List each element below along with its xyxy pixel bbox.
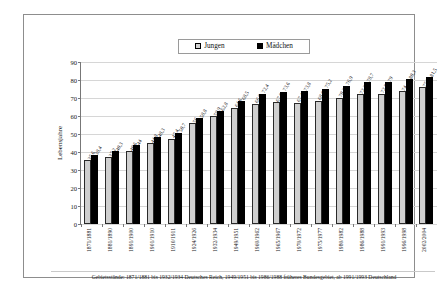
y-axis-tick-label: 40 — [70, 149, 77, 156]
x-axis-label-cell: 1949/1951 — [227, 227, 248, 271]
x-axis-label-cell: 1901/1910 — [143, 227, 164, 271]
gridline — [81, 224, 437, 225]
x-axis-tick-label: 1924/1926 — [192, 228, 198, 252]
bar-jungen: 70,2 — [336, 98, 343, 224]
x-axis-label-cell: 1924/1926 — [185, 227, 206, 271]
bar-jungen: 67,6 — [273, 102, 280, 224]
y-axis-tick-label: 10 — [70, 203, 77, 210]
bar-jungen: 72,5 — [378, 94, 385, 225]
x-axis-tick-label: 1891/1900 — [130, 228, 136, 252]
legend-label-maedchen: Mädchen — [266, 43, 293, 50]
chart-footnote: Gebietsstände: 1871/1881 bis 1932/1934 D… — [54, 274, 434, 280]
bar-maedchen: 40,3 — [112, 151, 119, 224]
x-axis-tick-label: 1965/1967 — [276, 228, 282, 252]
chart-frame: Jungen Mädchen Lebensjahre 0102030405060… — [23, 14, 415, 278]
bar-maedchen: 81,5 — [426, 77, 433, 224]
x-axis-label-cell: 1970/1972 — [289, 227, 310, 271]
bar-maedchen: 75,2 — [322, 89, 329, 224]
bar-maedchen: 76,9 — [343, 86, 350, 224]
x-axis-labels: 1871/18811881/18901891/19001901/19101910… — [80, 227, 436, 271]
x-axis-label-cell: 1910/1911 — [164, 227, 185, 271]
bar-group: 66,972,4 — [249, 62, 270, 224]
bar-maedchen: 44 — [133, 145, 140, 224]
bar-group: 40,644 — [123, 62, 144, 224]
x-axis-tick-label: 1871/1881 — [88, 228, 94, 252]
bar-group: 7480,3 — [395, 62, 416, 224]
chart-legend: Jungen Mädchen — [178, 39, 310, 54]
bar-group: 59,962,8 — [207, 62, 228, 224]
bar-maedchen: 79 — [385, 82, 392, 224]
x-axis-tick-label: 1986/1988 — [360, 228, 366, 252]
x-axis-tick-label: 1970/1972 — [297, 228, 303, 252]
bar-group: 72,579 — [374, 62, 395, 224]
y-axis-tick-label: 70 — [70, 95, 77, 102]
bar-maedchen: 73,6 — [280, 92, 287, 224]
x-axis-tick-label: 1991/1993 — [381, 228, 387, 252]
bar-maedchen: 50,7 — [175, 133, 182, 224]
bar-jungen: 59,9 — [210, 116, 217, 224]
bar-maedchen: 78,7 — [364, 82, 371, 224]
bar-group: 75,981,5 — [416, 62, 437, 224]
y-axis-tick-label: 90 — [70, 59, 77, 66]
legend-item-jungen: Jungen — [195, 43, 224, 50]
bar-maedchen: 73,8 — [301, 91, 308, 224]
x-axis-tick-label: 2002/2004 — [423, 228, 429, 252]
x-axis-tick-label: 1881/1890 — [109, 228, 115, 252]
bar-group: 5658,8 — [186, 62, 207, 224]
bar-jungen: 40,6 — [126, 151, 133, 224]
y-axis-tick-label: 50 — [70, 131, 77, 138]
bar-value-label: 79 — [387, 75, 394, 82]
x-axis-tick-label: 1910/1911 — [171, 228, 177, 252]
x-axis-label-cell: 1881/1890 — [101, 227, 122, 271]
y-axis-tick-label: 30 — [70, 167, 77, 174]
bar-jungen: 56 — [189, 123, 196, 224]
bar-jungen: 68,6 — [315, 101, 322, 224]
bar-group: 37,240,3 — [102, 62, 123, 224]
bar-jungen: 35,6 — [84, 160, 91, 224]
bar-group: 64,668,5 — [228, 62, 249, 224]
x-axis-tick-label: 1960/1962 — [255, 228, 261, 252]
legend-item-maedchen: Mädchen — [257, 43, 293, 50]
x-axis-label-cell: 1996/1998 — [394, 227, 415, 271]
bar-group: 72,278,7 — [353, 62, 374, 224]
bar-group: 44,848,3 — [144, 62, 165, 224]
bar-jungen: 44,8 — [147, 143, 154, 224]
bar-jungen: 66,9 — [252, 104, 259, 224]
legend-swatch-maedchen — [257, 43, 263, 49]
footnote-divider — [51, 271, 435, 272]
x-axis-label-cell: 1965/1967 — [268, 227, 289, 271]
legend-swatch-jungen — [195, 43, 201, 49]
x-axis-label-cell: 1932/1934 — [206, 227, 227, 271]
bar-maedchen: 38,4 — [91, 155, 98, 224]
x-axis-label-cell: 1980/1982 — [331, 227, 352, 271]
bar-group: 68,675,2 — [311, 62, 332, 224]
bar-maedchen: 48,3 — [154, 137, 161, 224]
bar-jungen: 47,4 — [168, 139, 175, 224]
bar-jungen: 64,6 — [231, 108, 238, 224]
bar-jungen: 67,4 — [294, 103, 301, 224]
bar-value-label: 81,5 — [429, 67, 438, 78]
bar-group: 67,473,8 — [290, 62, 311, 224]
bar-jungen: 37,2 — [105, 157, 112, 224]
bar-groups: 35,638,437,240,340,64444,848,347,450,756… — [81, 62, 437, 224]
y-axis-tick-label: 20 — [70, 185, 77, 192]
x-axis-tick-label: 1980/1982 — [339, 228, 345, 252]
bar-jungen: 75,9 — [419, 87, 426, 224]
bar-group: 35,638,4 — [81, 62, 102, 224]
bar-group: 67,673,6 — [269, 62, 290, 224]
legend-label-jungen: Jungen — [204, 43, 224, 50]
bar-value-label: 44 — [136, 138, 143, 145]
x-axis-tick-label: 1975/1977 — [318, 228, 324, 252]
x-axis-label-cell: 1871/1881 — [80, 227, 101, 271]
y-axis-tick-label: 80 — [70, 77, 77, 84]
bar-jungen: 74 — [399, 91, 406, 224]
bar-group: 70,276,9 — [332, 62, 353, 224]
plot-area: 0102030405060708090 35,638,437,240,340,6… — [80, 62, 437, 225]
x-axis-label-cell: 2002/2004 — [415, 227, 436, 271]
x-axis-tick-label: 1901/1910 — [150, 228, 156, 252]
y-axis-title: Lebensjahre — [55, 62, 65, 224]
x-axis-label-cell: 1986/1988 — [352, 227, 373, 271]
x-axis-label-cell: 1960/1962 — [248, 227, 269, 271]
y-axis-tick-label: 60 — [70, 113, 77, 120]
